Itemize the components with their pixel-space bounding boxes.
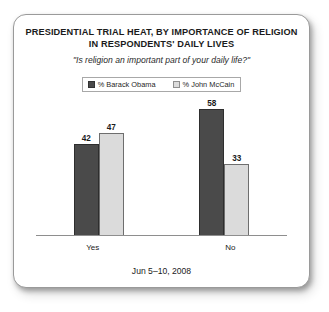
bar-group-no-bars: 58 33 [162,100,288,236]
bar-no-obama[interactable] [199,109,224,236]
bar-group-yes-bars: 42 47 [36,100,162,236]
chart-title: PRESIDENTIAL TRIAL HEAT, BY IMPORTANCE O… [24,26,299,51]
bar-value-no-obama: 58 [199,99,224,108]
legend-label-mccain: % John McCain [183,80,235,89]
category-label-yes: Yes [24,243,162,252]
bar-slot-yes-obama: 42 [74,100,99,236]
chart-title-line-2: IN RESPONDENTS' DAILY LIVES [24,38,299,50]
chart-card: PRESIDENTIAL TRIAL HEAT, BY IMPORTANCE O… [13,14,310,288]
bar-slot-no-mccain: 33 [224,100,249,236]
legend-container: % Barack Obama % John McCain [24,77,299,92]
category-label-no: No [162,243,300,252]
chart-subtitle: "Is religion an important part of your d… [24,55,299,66]
bar-no-mccain[interactable] [224,164,249,236]
plot-area: 42 47 [36,100,287,236]
chart-title-line-1: PRESIDENTIAL TRIAL HEAT, BY IMPORTANCE O… [24,26,299,38]
bar-value-yes-mccain: 47 [99,123,124,132]
legend-swatch-obama-icon [88,81,95,88]
legend-swatch-mccain-icon [173,81,180,88]
bar-groups: 42 47 [36,100,287,236]
bar-group-yes: 42 47 [36,100,162,236]
plot-region: 42 47 [24,100,299,266]
legend-item-obama: % Barack Obama [88,80,156,89]
bar-yes-mccain[interactable] [99,133,124,236]
bar-group-no: 58 33 [162,100,288,236]
bar-slot-yes-mccain: 47 [99,100,124,236]
bar-yes-obama[interactable] [74,144,99,236]
chart-legend: % Barack Obama % John McCain [82,77,242,92]
chart-card-inner: PRESIDENTIAL TRIAL HEAT, BY IMPORTANCE O… [14,15,309,287]
bar-slot-no-obama: 58 [199,100,224,236]
legend-item-mccain: % John McCain [173,80,235,89]
bar-value-yes-obama: 42 [74,134,99,143]
bar-value-no-mccain: 33 [224,154,249,163]
screenshot-root: PRESIDENTIAL TRIAL HEAT, BY IMPORTANCE O… [0,0,329,312]
legend-label-obama: % Barack Obama [98,80,156,89]
chart-footer-date: Jun 5–10, 2008 [24,266,299,279]
x-axis-baseline [36,235,287,236]
